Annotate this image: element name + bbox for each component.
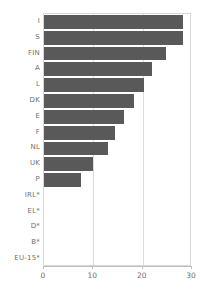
bar [44, 173, 81, 187]
y-axis-label: D* [0, 222, 40, 230]
y-axis-label: IRL* [0, 191, 40, 199]
y-axis-label: P [0, 175, 40, 183]
plot-area [43, 13, 191, 266]
bar [44, 47, 166, 61]
bar [44, 15, 183, 29]
y-axis-label: FIN [0, 49, 40, 57]
y-axis-label: S [0, 33, 40, 41]
bar [44, 142, 108, 156]
y-axis-label: EL* [0, 207, 40, 215]
bar [44, 62, 152, 76]
bar-row [44, 156, 190, 172]
x-tick-label: 30 [181, 271, 201, 280]
x-tick-mark [43, 266, 44, 269]
bar [44, 78, 144, 92]
y-axis-label: E [0, 112, 40, 120]
bar-row [44, 46, 190, 62]
x-tick-label: 10 [82, 271, 102, 280]
bar [44, 126, 115, 140]
bar-row [44, 61, 190, 77]
y-axis-label: NL [0, 143, 40, 151]
bar [44, 94, 134, 108]
bar-row [44, 109, 190, 125]
bar-row [44, 204, 190, 220]
x-tick-label: 20 [132, 271, 152, 280]
bar-row [44, 188, 190, 204]
bar [44, 31, 183, 45]
y-axis-label: F [0, 128, 40, 136]
bar-chart: ISFINALDKEFNLUKPIRL*EL*D*B*EU-15* 010203… [0, 0, 208, 299]
bar-row [44, 14, 190, 30]
bar-row [44, 93, 190, 109]
bar-row [44, 172, 190, 188]
bar [44, 110, 124, 124]
bar-rows [44, 14, 190, 265]
bar [44, 157, 93, 171]
y-axis-category-labels: ISFINALDKEFNLUKPIRL*EL*D*B*EU-15* [0, 13, 40, 266]
bar-row [44, 251, 190, 267]
y-axis-label: B* [0, 238, 40, 246]
y-axis-label: EU-15* [0, 254, 40, 262]
y-axis-label: A [0, 64, 40, 72]
x-tick-mark [92, 266, 93, 269]
bar-row [44, 30, 190, 46]
x-axis-line [43, 266, 191, 267]
bar-row [44, 235, 190, 251]
y-axis-label: L [0, 80, 40, 88]
y-axis-label: DK [0, 96, 40, 104]
x-tick-label: 0 [33, 271, 53, 280]
bar-row [44, 220, 190, 236]
bar-row [44, 125, 190, 141]
y-axis-label: UK [0, 159, 40, 167]
bar-row [44, 141, 190, 157]
bar-row [44, 77, 190, 93]
x-tick-mark [142, 266, 143, 269]
x-tick-mark [191, 266, 192, 269]
y-axis-label: I [0, 17, 40, 25]
